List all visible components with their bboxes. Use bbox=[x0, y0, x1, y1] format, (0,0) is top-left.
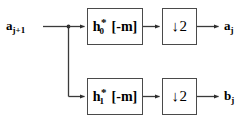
downsampler-highpass-label: ↓2 bbox=[172, 88, 188, 105]
output-signal-label-highpass: bj bbox=[224, 89, 234, 102]
output-highpass-subscript: j bbox=[231, 95, 234, 105]
downsampler-block-highpass[interactable]: ↓2 bbox=[162, 78, 197, 115]
input-signal-base: a bbox=[6, 18, 13, 33]
filter-bank-diagram: aj+1 h0*[-m] ↓2 aj h1*[-m] ↓2 bj bbox=[0, 0, 249, 125]
filter-lowpass-argument: [-m] bbox=[112, 19, 138, 34]
filter-lowpass-label: h0*[-m] bbox=[93, 20, 137, 34]
filter-block-highpass[interactable]: h1*[-m] bbox=[87, 78, 143, 115]
input-signal-subscript: j+1 bbox=[13, 25, 26, 35]
filter-highpass-label: h1*[-m] bbox=[93, 90, 137, 104]
output-signal-label-lowpass: aj bbox=[224, 19, 234, 32]
downsampler-lowpass-label: ↓2 bbox=[172, 18, 188, 35]
downsampler-block-lowpass[interactable]: ↓2 bbox=[162, 8, 197, 45]
input-signal-label: aj+1 bbox=[6, 19, 25, 32]
filter-highpass-argument: [-m] bbox=[112, 89, 138, 104]
filter-block-lowpass[interactable]: h0*[-m] bbox=[87, 8, 143, 45]
filter-lowpass-conjugate-icon: * bbox=[101, 16, 107, 28]
output-lowpass-base: a bbox=[224, 18, 231, 33]
filter-highpass-conjugate-icon: * bbox=[101, 86, 107, 98]
output-lowpass-subscript: j bbox=[231, 25, 234, 35]
